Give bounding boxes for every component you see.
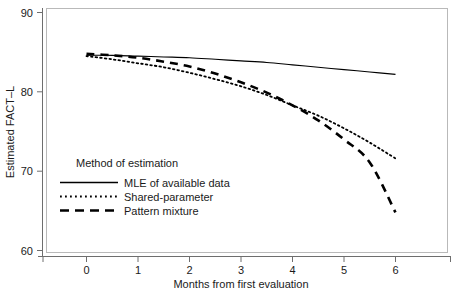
line-chart: 90 80 70 60 Estimated FACT–L 0 1 2 3 4 5 xyxy=(0,0,457,290)
legend-entry-mle: MLE of available data xyxy=(60,177,231,189)
x-tick-label-5: 5 xyxy=(341,264,347,276)
x-axis-tick-labels: 0 1 2 3 4 5 6 xyxy=(83,264,398,276)
chart-figure: 90 80 70 60 Estimated FACT–L 0 1 2 3 4 5 xyxy=(0,0,457,290)
y-tick-label-70: 70 xyxy=(21,165,33,177)
legend-title: Method of estimation xyxy=(76,157,178,169)
legend-label-mle: MLE of available data xyxy=(124,177,231,189)
legend-entry-shared-parameter: Shared-parameter xyxy=(60,191,214,203)
legend-label-pattern-mixture: Pattern mixture xyxy=(124,205,199,217)
x-tick-label-4: 4 xyxy=(289,264,295,276)
x-axis-title: Months from first evaluation xyxy=(173,278,308,290)
legend-entry-pattern-mixture: Pattern mixture xyxy=(60,205,199,217)
y-tick-label-80: 80 xyxy=(21,86,33,98)
x-axis-ticks xyxy=(43,257,451,263)
x-tick-label-0: 0 xyxy=(83,264,89,276)
y-tick-label-90: 90 xyxy=(21,7,33,19)
x-tick-label-2: 2 xyxy=(186,264,192,276)
y-tick-label-60: 60 xyxy=(21,245,33,257)
y-axis-title: Estimated FACT–L xyxy=(4,86,16,178)
legend: Method of estimation MLE of available da… xyxy=(60,157,231,217)
plot-frame xyxy=(47,9,448,253)
x-tick-label-1: 1 xyxy=(135,264,141,276)
y-axis-tick-labels: 90 80 70 60 xyxy=(21,7,33,257)
x-tick-label-3: 3 xyxy=(238,264,244,276)
x-tick-label-6: 6 xyxy=(392,264,398,276)
y-axis-ticks xyxy=(37,13,43,251)
legend-label-shared-parameter: Shared-parameter xyxy=(124,191,214,203)
